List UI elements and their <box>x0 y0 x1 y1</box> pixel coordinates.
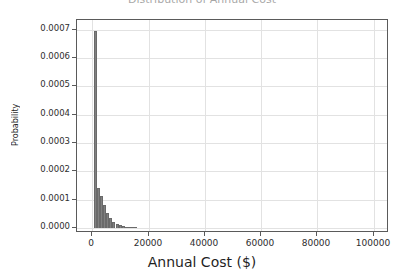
y-tick-label-6: 0.0006 <box>40 52 70 61</box>
x-axis-label: Annual Cost ($) <box>0 253 404 271</box>
y-tick-label-5: 0.0005 <box>40 80 70 89</box>
histogram-bar <box>134 227 137 228</box>
y-tick-1 <box>72 199 76 200</box>
x-tick-label-4: 80000 <box>302 238 331 249</box>
y-axis-label: Probability <box>9 80 23 170</box>
x-tick-4 <box>316 232 317 236</box>
y-tick-5 <box>72 85 76 86</box>
histogram-bars <box>77 20 389 233</box>
y-tick-label-4: 0.0004 <box>40 109 70 118</box>
chart-title-cropped: Distribution of Annual Cost <box>0 0 404 7</box>
x-tick-label-0: 0 <box>88 238 94 249</box>
y-tick-label-0: 0.0000 <box>40 222 70 231</box>
y-tick-0 <box>72 227 76 228</box>
histogram-figure: Distribution of Annual Cost 0.00000.0001… <box>0 0 404 277</box>
x-tick-0 <box>91 232 92 236</box>
x-tick-label-5: 100000 <box>356 238 390 249</box>
x-tick-label-2: 40000 <box>190 238 219 249</box>
y-tick-label-2: 0.0002 <box>40 165 70 174</box>
x-tick-2 <box>204 232 205 236</box>
y-tick-4 <box>72 114 76 115</box>
chart-title-text: Distribution of Annual Cost <box>128 0 276 6</box>
y-tick-2 <box>72 170 76 171</box>
y-tick-label-3: 0.0003 <box>40 137 70 146</box>
y-tick-label-1: 0.0001 <box>40 194 70 203</box>
y-tick-7 <box>72 29 76 30</box>
y-tick-6 <box>72 57 76 58</box>
x-tick-5 <box>373 232 374 236</box>
y-tick-3 <box>72 142 76 143</box>
plot-axes <box>76 19 388 232</box>
x-tick-1 <box>148 232 149 236</box>
x-tick-label-1: 20000 <box>134 238 163 249</box>
y-tick-label-7: 0.0007 <box>40 24 70 33</box>
x-tick-label-3: 60000 <box>246 238 275 249</box>
x-tick-3 <box>260 232 261 236</box>
